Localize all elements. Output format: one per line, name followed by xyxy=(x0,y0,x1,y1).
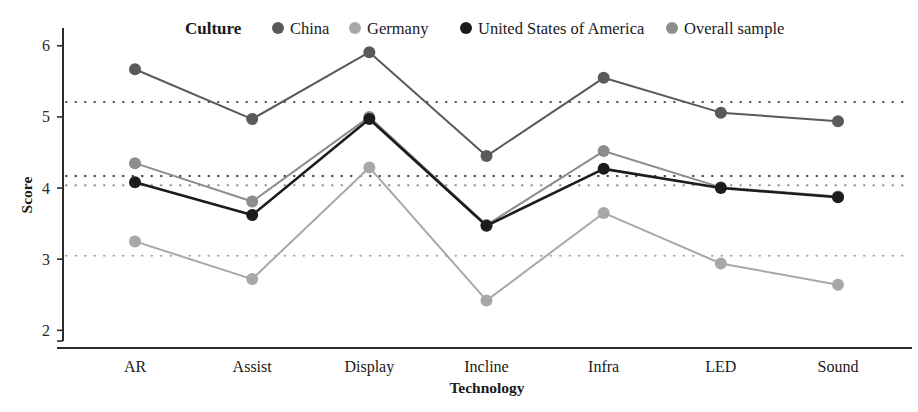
y-axis-tick-label: 5 xyxy=(42,108,50,125)
data-point-china-ar xyxy=(129,63,141,75)
line-chart: Culture ChinaGermanyUnited States of Ame… xyxy=(0,0,918,412)
data-point-united-states-of-america-ar xyxy=(129,176,141,188)
legend-label-overall-sample: Overall sample xyxy=(684,19,784,38)
data-point-germany-infra xyxy=(598,207,610,219)
series-line-united-states-of-america xyxy=(135,119,838,226)
legend-marker-united-states-of-america xyxy=(460,22,472,34)
data-point-overall-sample-assist xyxy=(246,196,258,208)
x-axis-category-label: Assist xyxy=(233,358,273,375)
data-point-germany-display xyxy=(363,161,375,173)
data-point-germany-sound xyxy=(832,279,844,291)
x-axis-title: Technology xyxy=(449,379,524,396)
series-line-overall-sample xyxy=(135,117,838,225)
data-point-united-states-of-america-display xyxy=(363,113,375,125)
legend-marker-overall-sample xyxy=(666,22,678,34)
data-point-germany-ar xyxy=(129,235,141,247)
chart-canvas: Culture ChinaGermanyUnited States of Ame… xyxy=(0,0,918,412)
data-point-china-sound xyxy=(832,115,844,127)
reference-lines xyxy=(66,102,910,256)
data-point-united-states-of-america-assist xyxy=(246,209,258,221)
data-point-germany-assist xyxy=(246,273,258,285)
data-point-overall-sample-infra xyxy=(598,145,610,157)
chart-legend: Culture ChinaGermanyUnited States of Ame… xyxy=(185,19,784,38)
legend-label-united-states-of-america: United States of America xyxy=(478,19,645,38)
x-axis-category-label: Infra xyxy=(588,358,619,375)
series-line-china xyxy=(135,52,838,156)
y-axis-tick-label: 4 xyxy=(42,180,50,197)
legend-label-germany: Germany xyxy=(367,19,429,38)
x-axis-category-label: Sound xyxy=(818,358,859,375)
y-axis-tick-label: 6 xyxy=(42,37,50,54)
legend-marker-china xyxy=(272,22,284,34)
data-point-united-states-of-america-incline xyxy=(481,220,493,232)
data-point-united-states-of-america-infra xyxy=(598,163,610,175)
y-axis-title: Score xyxy=(18,177,35,214)
x-axis-category-label: LED xyxy=(705,358,736,375)
data-point-china-infra xyxy=(598,72,610,84)
legend-title: Culture xyxy=(185,19,242,38)
data-point-united-states-of-america-led xyxy=(715,182,727,194)
data-point-germany-incline xyxy=(481,294,493,306)
data-point-china-incline xyxy=(481,150,493,162)
data-point-united-states-of-america-sound xyxy=(832,191,844,203)
legend-marker-germany xyxy=(349,22,361,34)
y-axis-ticks: 23456 xyxy=(42,37,63,339)
data-point-germany-led xyxy=(715,257,727,269)
data-point-overall-sample-ar xyxy=(129,157,141,169)
data-point-china-led xyxy=(715,107,727,119)
x-axis-category-label: Display xyxy=(344,358,394,376)
x-axis-category-label: AR xyxy=(124,358,147,375)
data-point-china-assist xyxy=(246,113,258,125)
x-axis-category-labels: ARAssistDisplayInclineInfraLEDSound xyxy=(124,358,859,376)
y-axis-tick-label: 3 xyxy=(42,251,50,268)
x-axis-category-label: Incline xyxy=(464,358,508,375)
data-point-china-display xyxy=(363,46,375,58)
y-axis-tick-label: 2 xyxy=(42,322,50,339)
legend-label-china: China xyxy=(290,19,330,38)
